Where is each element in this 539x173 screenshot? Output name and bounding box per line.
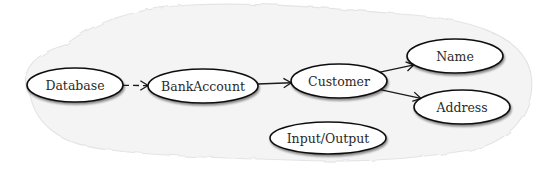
node-label: Customer: [308, 74, 370, 89]
node-name[interactable]: Name: [407, 39, 503, 73]
node-label: Database: [45, 78, 104, 93]
node-label: BankAccount: [161, 79, 245, 94]
node-label: Address: [435, 100, 487, 115]
node-address[interactable]: Address: [414, 90, 510, 124]
node-label: Input/Output: [287, 131, 370, 146]
node-database[interactable]: Database: [27, 68, 123, 102]
node-inputoutput[interactable]: Input/Output: [270, 122, 386, 154]
node-label: Name: [436, 49, 474, 64]
node-customer[interactable]: Customer: [291, 64, 387, 98]
node-bankaccount[interactable]: BankAccount: [148, 69, 258, 103]
diagram-canvas: DatabaseBankAccountCustomerNameAddressIn…: [0, 0, 539, 173]
